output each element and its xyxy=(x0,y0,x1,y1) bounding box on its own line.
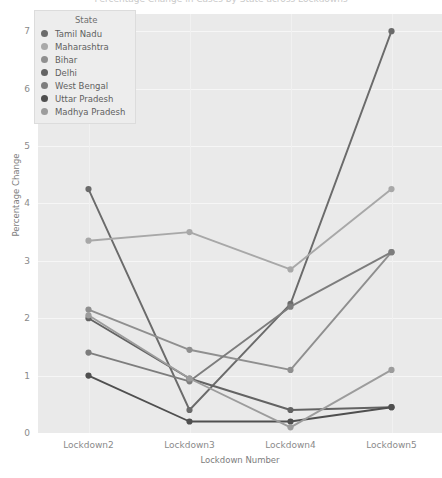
legend-swatch-icon xyxy=(41,95,48,102)
data-point xyxy=(287,407,293,413)
x-tick-label: Lockdown4 xyxy=(265,440,316,450)
y-tick-label: 1 xyxy=(2,371,30,381)
legend-item-label: Bihar xyxy=(55,55,77,65)
chart-title: Percentage Change in Cases by State acro… xyxy=(0,0,442,8)
legend-item[interactable]: Uttar Pradesh xyxy=(41,92,125,105)
data-point xyxy=(186,347,192,353)
legend-item-label: West Bengal xyxy=(55,81,108,91)
legend-title: State xyxy=(47,15,125,25)
y-tick-label: 7 xyxy=(2,26,30,36)
legend-swatch-icon xyxy=(41,56,48,63)
x-tick-label: Lockdown2 xyxy=(63,440,114,450)
data-point xyxy=(85,307,91,313)
series-path xyxy=(89,376,392,422)
data-point xyxy=(85,238,91,244)
legend-item[interactable]: Bihar xyxy=(41,53,125,66)
legend-item-label: Madhya Pradesh xyxy=(55,107,125,117)
data-point xyxy=(388,186,394,192)
y-tick-label: 3 xyxy=(2,256,30,266)
data-point xyxy=(287,418,293,424)
data-point xyxy=(287,304,293,310)
legend-swatch-icon xyxy=(41,108,48,115)
series-bihar xyxy=(85,249,394,373)
data-point xyxy=(287,424,293,430)
data-point xyxy=(85,350,91,356)
data-point xyxy=(388,28,394,34)
series-uttar-pradesh xyxy=(85,373,394,425)
legend-item[interactable]: Maharashtra xyxy=(41,40,125,53)
data-point xyxy=(287,367,293,373)
line-chart: Percentage Change in Cases by State acro… xyxy=(0,0,442,478)
data-point xyxy=(85,312,91,318)
legend-item-label: Maharashtra xyxy=(55,42,109,52)
series-path xyxy=(89,252,392,381)
data-point xyxy=(85,186,91,192)
x-tick-label: Lockdown3 xyxy=(164,440,215,450)
series-path xyxy=(89,252,392,370)
legend: State Tamil NaduMaharashtraBiharDelhiWes… xyxy=(34,10,136,124)
series-maharashtra xyxy=(85,186,394,273)
legend-swatch-icon xyxy=(41,43,48,50)
x-axis-label: Lockdown Number xyxy=(38,455,442,465)
legend-swatch-icon xyxy=(41,82,48,89)
data-point xyxy=(85,373,91,379)
data-point xyxy=(388,367,394,373)
series-path xyxy=(89,315,392,427)
legend-item-label: Uttar Pradesh xyxy=(55,94,113,104)
legend-item[interactable]: Tamil Nadu xyxy=(41,27,125,40)
y-tick-label: 6 xyxy=(2,84,30,94)
data-point xyxy=(186,229,192,235)
data-point xyxy=(388,249,394,255)
legend-item[interactable]: Madhya Pradesh xyxy=(41,105,125,118)
legend-entries: Tamil NaduMaharashtraBiharDelhiWest Beng… xyxy=(41,27,125,118)
legend-item[interactable]: Delhi xyxy=(41,66,125,79)
data-point xyxy=(287,266,293,272)
y-tick-label: 2 xyxy=(2,313,30,323)
data-point xyxy=(186,407,192,413)
legend-item-label: Tamil Nadu xyxy=(55,29,102,39)
legend-swatch-icon xyxy=(41,30,48,37)
legend-swatch-icon xyxy=(41,69,48,76)
series-west-bengal xyxy=(85,249,394,384)
legend-item[interactable]: West Bengal xyxy=(41,79,125,92)
y-tick-label: 0 xyxy=(2,428,30,438)
x-tick-label: Lockdown5 xyxy=(366,440,417,450)
data-point xyxy=(186,418,192,424)
y-axis-label: Percentage Change xyxy=(11,145,21,245)
data-point xyxy=(186,375,192,381)
legend-item-label: Delhi xyxy=(55,68,77,78)
series-path xyxy=(89,189,392,269)
data-point xyxy=(388,404,394,410)
